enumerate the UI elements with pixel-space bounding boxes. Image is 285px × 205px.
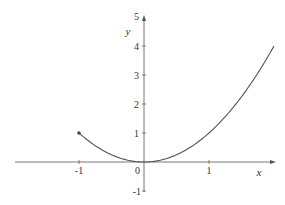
curve-y-equals-x-squared [79, 46, 274, 162]
x-tick-label-1: 1 [207, 165, 212, 176]
endpoint-dot [77, 131, 81, 135]
y-tick-label-4: 4 [134, 41, 139, 52]
y-axis-arrow-icon [142, 15, 146, 21]
y-tick-label-1: 1 [134, 128, 139, 139]
x-axis-arrow-icon [270, 160, 276, 164]
function-plot: 5 4 3 2 1 -1 0 -1 1 x y [0, 0, 285, 205]
y-tick-label-2: 2 [134, 99, 139, 110]
y-tick-label-5: 5 [134, 11, 139, 22]
y-tick-label-3: 3 [134, 70, 139, 81]
y-tick-label-neg1: -1 [133, 186, 141, 197]
y-axis-label: y [125, 25, 131, 37]
x-axis-label: x [256, 166, 262, 178]
origin-label: 0 [135, 165, 140, 176]
x-tick-label-neg1: -1 [75, 165, 83, 176]
